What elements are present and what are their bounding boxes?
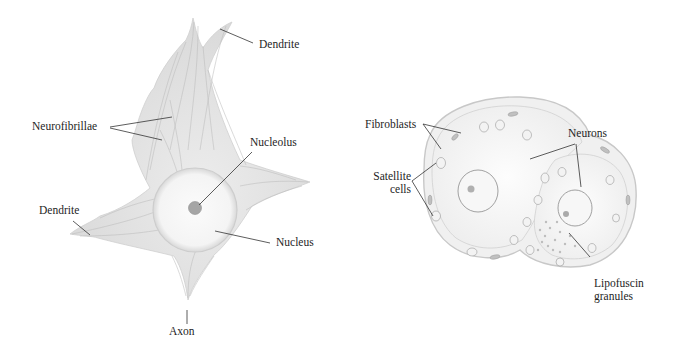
label-lipofuscin-line1: Lipofuscin	[594, 277, 644, 290]
label-satellite-line1: Satellite	[355, 170, 411, 183]
neuron-cell-body	[70, 18, 310, 300]
label-fibroblasts: Fibroblasts	[365, 118, 416, 131]
label-dendrite-top: Dendrite	[259, 38, 299, 51]
nucleolus	[189, 202, 202, 215]
ganglion-cluster	[424, 97, 636, 267]
cytoplasm	[70, 18, 310, 300]
label-satellite-cells: Satellite cells	[355, 170, 411, 196]
nucleolus-small	[563, 211, 569, 217]
label-nucleus: Nucleus	[276, 236, 314, 249]
label-lipofuscin-granules: Lipofuscin granules	[594, 277, 644, 303]
label-neurons: Neurons	[568, 127, 607, 140]
nucleolus-large	[468, 186, 475, 193]
label-nucleolus: Nucleolus	[250, 136, 297, 149]
label-axon: Axon	[169, 325, 195, 338]
label-dendrite-left: Dendrite	[39, 204, 79, 217]
label-satellite-line2: cells	[355, 183, 411, 196]
label-neurofibrillae: Neurofibrillae	[32, 120, 97, 133]
illustration	[0, 0, 688, 339]
nucleus-small	[558, 190, 592, 226]
label-lipofuscin-line2: granules	[594, 290, 644, 303]
nucleus-large	[458, 170, 498, 212]
